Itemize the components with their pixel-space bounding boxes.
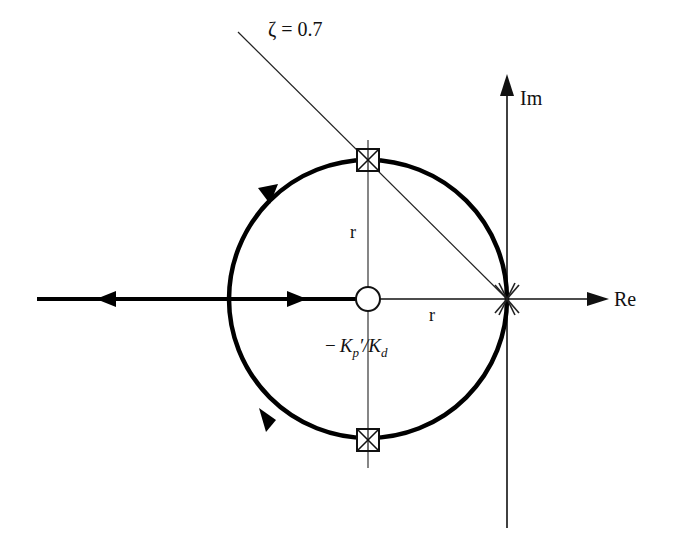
minus-sign: − bbox=[325, 335, 336, 356]
real-axis-label: Re bbox=[614, 288, 636, 310]
root-locus-diagram: ζ = 0.7 Im Re r r −Kp′/Kd bbox=[0, 0, 673, 547]
radius-label-horizontal: r bbox=[429, 305, 435, 325]
d-subscript: d bbox=[381, 345, 388, 360]
zero-marker-icon bbox=[356, 287, 380, 311]
lower-pole-marker-icon bbox=[357, 429, 379, 451]
radius-label-vertical: r bbox=[350, 222, 356, 242]
zero-location-label: −Kp′/Kd bbox=[325, 335, 388, 360]
lower-arc-arrow-icon bbox=[259, 408, 276, 432]
upper-pole-marker-icon bbox=[357, 149, 379, 171]
root-locus-svg: ζ = 0.7 Im Re r r −Kp′/Kd bbox=[0, 0, 673, 547]
real-axis-arrow-icon bbox=[587, 292, 609, 306]
damping-ratio-label: ζ = 0.7 bbox=[268, 18, 323, 41]
imag-axis-label: Im bbox=[520, 87, 543, 109]
right-arrow-icon bbox=[287, 291, 307, 307]
left-arrow-icon bbox=[96, 291, 116, 307]
imag-axis-arrow-icon bbox=[500, 74, 514, 96]
